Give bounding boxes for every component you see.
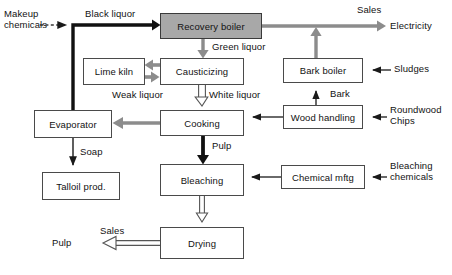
label-pulp-cooking: Pulp [212, 140, 231, 151]
edge-causticizing-to-cooking [195, 85, 208, 106]
process-flow-diagram: Recovery boiler Lime kiln Causticizing B… [0, 0, 452, 275]
node-cooking[interactable]: Cooking [160, 110, 244, 136]
label-bleaching-chemicals: Bleachingchemicals [390, 160, 450, 182]
edge-drying-to-pulp [103, 236, 160, 249]
edge-cooking-to-evaporator [113, 117, 161, 129]
node-label: Wood handling [291, 112, 356, 123]
edge-recovery-to-electricity [262, 20, 386, 31]
node-label: Cooking [184, 118, 220, 129]
node-wood-handling[interactable]: Wood handling [283, 105, 363, 129]
label-electricity: Electricity [390, 20, 432, 31]
node-evaporator[interactable]: Evaporator [34, 110, 112, 138]
label-sludges: Sludges [394, 63, 429, 74]
edge-cooking-to-bleaching [197, 136, 209, 165]
node-label: Recovery boiler [177, 21, 245, 32]
node-recovery-boiler[interactable]: Recovery boiler [160, 13, 262, 39]
edge-bleaching-to-drying [196, 196, 207, 222]
node-bark-boiler[interactable]: Bark boiler [283, 58, 363, 83]
node-label: Evaporator [49, 119, 96, 130]
label-soap: Soap [80, 146, 103, 157]
node-label: Bark boiler [300, 65, 347, 76]
label-black-liquor: Black liquor [85, 8, 135, 19]
label-sales-pulp: Sales [100, 225, 124, 236]
node-label: Chemical mftg [292, 172, 354, 183]
edge-limekiln-to-causticizing [145, 71, 160, 82]
edge-recovery-to-causticizing [197, 39, 208, 59]
node-drying[interactable]: Drying [160, 227, 244, 259]
node-label: Talloil prod. [56, 181, 105, 192]
label-bark: Bark [330, 88, 350, 99]
label-white-liquor: White liquor [209, 89, 260, 100]
label-makeup-chemicals: Makeupchemicals [4, 8, 66, 30]
edge-barkboiler-to-electricity-line [310, 27, 321, 58]
node-bleaching[interactable]: Bleaching [160, 164, 244, 196]
edge-causticizing-to-limekiln [145, 59, 161, 70]
node-lime-kiln[interactable]: Lime kiln [83, 58, 145, 85]
label-green-liquor: Green liquor [212, 41, 265, 52]
label-sales-electricity: Sales [357, 4, 381, 15]
label-pulp-out: Pulp [52, 237, 71, 248]
label-weak-liquor: Weak liquor [112, 89, 163, 100]
node-talloil-prod[interactable]: Talloil prod. [42, 172, 120, 200]
node-label: Causticizing [176, 66, 228, 77]
node-label: Bleaching [181, 175, 224, 186]
label-roundwood-chips: RoundwoodChips [390, 104, 450, 126]
node-causticizing[interactable]: Causticizing [160, 58, 244, 85]
node-chemical-mftg[interactable]: Chemical mftg [281, 165, 365, 189]
node-label: Drying [188, 238, 216, 249]
node-label: Lime kiln [95, 66, 133, 77]
